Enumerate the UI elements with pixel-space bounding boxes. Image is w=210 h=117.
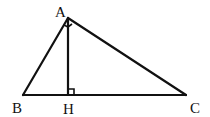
segment-ab bbox=[23, 18, 68, 95]
label-h: H bbox=[63, 101, 74, 117]
label-b: B bbox=[12, 100, 22, 116]
label-a: A bbox=[55, 4, 66, 20]
triangle-diagram: A B H C bbox=[0, 0, 210, 117]
segment-ac bbox=[68, 18, 186, 95]
label-c: C bbox=[190, 100, 200, 116]
